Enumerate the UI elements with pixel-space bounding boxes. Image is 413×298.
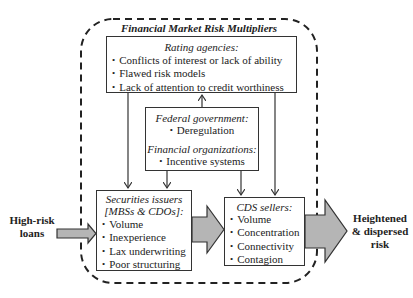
output-arrow	[305, 200, 347, 262]
securities-to-cds-arrow	[192, 206, 224, 253]
securities-issuers-heading: Securities issuers	[97, 193, 191, 205]
list-item: Inexperience	[102, 231, 186, 244]
list-item: Contagion	[230, 253, 299, 266]
rating-agencies-box: Rating agencies: Conflicts of interest o…	[106, 36, 297, 93]
input-label-line2: loans	[2, 227, 62, 240]
output-label-line2: & dispersed	[347, 225, 413, 238]
cds-sellers-box: CDS sellers: Volume Concentration Connec…	[224, 197, 305, 266]
output-label-line1: Heightened	[347, 212, 413, 225]
list-item: Volume	[102, 218, 186, 231]
list-item: Conflicts of interest or lack of ability	[112, 54, 284, 67]
securities-issuers-box: Securities issuers [MBSs & CDOs]: Volume…	[96, 190, 192, 271]
list-item: Flawed risk models	[112, 67, 284, 80]
output-label-line3: risk	[347, 238, 413, 251]
federal-government-box: Federal government: Deregulation Financi…	[145, 107, 259, 171]
federal-government-list: Deregulation	[146, 124, 258, 137]
cds-sellers-list: Volume Concentration Connectivity Contag…	[230, 213, 299, 266]
rating-agencies-list: Conflicts of interest or lack of ability…	[112, 54, 284, 94]
federal-government-heading: Federal government:	[146, 112, 258, 124]
list-item: Lax underwriting	[102, 245, 186, 258]
input-label: High-risk loans	[2, 214, 62, 240]
list-item: Volume	[230, 213, 299, 226]
list-item: Deregulation	[146, 124, 258, 137]
output-label: Heightened & dispersed risk	[347, 212, 413, 251]
list-item: Concentration	[230, 226, 299, 239]
financial-organizations-heading: Financial organizations:	[146, 143, 258, 155]
list-item: Connectivity	[230, 240, 299, 253]
input-label-line1: High-risk	[2, 214, 62, 227]
rating-agencies-heading: Rating agencies:	[107, 41, 296, 53]
diagram-title: Financial Market Risk Multipliers	[82, 22, 316, 34]
securities-issuers-subheading: [MBSs & CDOs]:	[97, 205, 191, 217]
list-item: Poor structuring	[102, 258, 186, 271]
list-item: Lack of attention to credit worthiness	[112, 81, 284, 94]
list-item: Incentive systems	[146, 155, 258, 168]
securities-issuers-list: Volume Inexperience Lax underwriting Poo…	[102, 218, 186, 271]
financial-organizations-list: Incentive systems	[146, 155, 258, 168]
cds-sellers-heading: CDS sellers:	[225, 201, 304, 213]
input-arrow	[57, 224, 96, 243]
